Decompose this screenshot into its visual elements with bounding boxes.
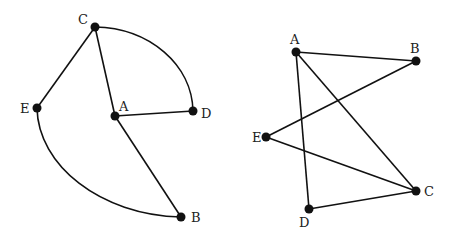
node-label-left-d: D [201, 106, 211, 121]
node-label-right-b: B [410, 41, 420, 56]
node-label-left-c: C [78, 12, 88, 27]
node-right-d [305, 205, 314, 214]
node-label-right-d: D [299, 215, 309, 230]
node-label-left-b: B [191, 210, 201, 225]
node-left-d [189, 107, 198, 116]
node-left-c [91, 23, 100, 32]
edge-left-e-b [37, 108, 181, 217]
node-right-a [292, 48, 301, 57]
node-label-left-a: A [118, 99, 129, 114]
left-graph: CEADB [20, 12, 211, 225]
edge-right-a-d [296, 52, 309, 209]
edge-left-c-e [37, 27, 95, 108]
node-right-c [412, 187, 421, 196]
graph-diagram-canvas: CEADB ABECD [0, 0, 454, 241]
node-label-right-e: E [252, 130, 262, 145]
node-right-e [262, 133, 271, 142]
node-left-b [177, 213, 186, 222]
node-label-right-c: C [424, 184, 434, 199]
edge-left-c-d [95, 27, 193, 111]
edge-right-a-b [296, 52, 416, 61]
right-graph: ABECD [252, 32, 434, 230]
node-label-left-e: E [20, 101, 30, 116]
edge-right-b-e [266, 61, 416, 137]
edge-right-d-c [309, 191, 416, 209]
node-right-b [412, 57, 421, 66]
node-left-e [33, 104, 42, 113]
edge-left-a-b [115, 116, 181, 217]
node-label-right-a: A [289, 32, 300, 47]
edge-left-c-a [95, 27, 115, 116]
